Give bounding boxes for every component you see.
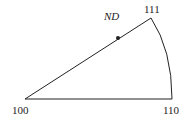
edge-100-111 — [25, 18, 151, 99]
nd-label: ND — [103, 10, 119, 22]
vertex-100-label: 100 — [12, 104, 29, 116]
vertex-111-label: 111 — [144, 3, 160, 15]
vertex-110-label: 110 — [163, 104, 180, 116]
nd-marker-dot — [116, 36, 120, 40]
stereographic-triangle-diagram: ND 111 100 110 — [0, 0, 186, 125]
triangle-outline — [25, 18, 172, 99]
arc-111-110 — [151, 18, 172, 99]
